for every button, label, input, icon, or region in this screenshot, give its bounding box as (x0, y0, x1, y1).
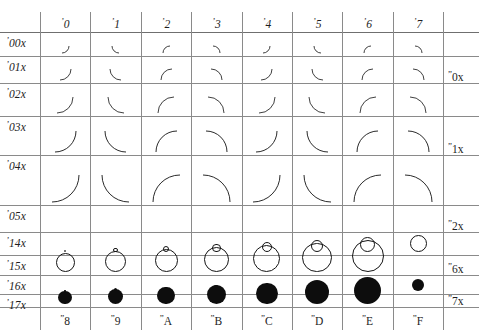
glyph-cell (415, 46, 422, 53)
row-header-hex-4: ”7x (448, 294, 464, 308)
row-header-octal-1: ’01x (6, 60, 26, 74)
grid-vline-0 (40, 12, 41, 330)
glyph-cell (304, 175, 331, 202)
row-header-octal-9: ’17x (6, 298, 26, 312)
column-header-hex-3: ”B (191, 314, 241, 328)
row-header-hex-1: ”1x (448, 142, 464, 156)
row-header-hex-0: ”0x (448, 70, 464, 84)
row-header-hex-2: ”2x (448, 219, 464, 233)
column-header-octal-6: ’6 (342, 17, 392, 31)
glyph-cell (405, 175, 432, 202)
row-header-octal-3: ’03x (6, 120, 26, 134)
column-header-hex-1: ”9 (90, 314, 140, 328)
glyph-hollow-circle (253, 245, 280, 272)
glyph-cell (206, 131, 227, 152)
column-header-octal-4: ’4 (242, 17, 292, 31)
glyph-cell (408, 131, 429, 152)
column-header-octal-5: ’5 (292, 17, 342, 31)
glyph-cell (110, 69, 121, 80)
glyph-cell (314, 46, 321, 53)
grid-vline-1 (90, 12, 91, 330)
column-header-hex-2: ”A (141, 314, 191, 328)
glyph-solid-circle (412, 279, 424, 291)
glyph-hollow-circle (56, 253, 75, 272)
glyph-hollow-circle (155, 249, 178, 272)
glyph-solid-circle (354, 277, 381, 304)
glyph-solid-circle (207, 285, 227, 305)
glyph-cell (62, 46, 69, 53)
glyph-cell (208, 97, 224, 113)
grid-hline-6 (0, 232, 479, 233)
glyph-cell (203, 175, 230, 202)
glyph-cell (364, 46, 371, 53)
glyph-cell (102, 175, 129, 202)
glyph-hollow-circle (64, 250, 67, 253)
column-header-octal-1: ’1 (90, 17, 140, 31)
glyph-cell (211, 69, 222, 80)
row-header-hex-3: ”6x (448, 262, 464, 276)
row-header-octal-0: ’00x (6, 36, 26, 50)
glyph-solid-circle (108, 289, 124, 305)
glyph-cell (362, 69, 373, 80)
column-header-hex-6: ”E (342, 314, 392, 328)
glyph-cell (105, 131, 126, 152)
row-header-octal-4: ’04x (6, 159, 26, 173)
column-header-octal-7: ’7 (393, 17, 443, 31)
grid-hline-9 (0, 294, 479, 295)
glyph-cell (259, 97, 275, 113)
glyph-cell (312, 69, 323, 80)
glyph-hollow-circle (302, 243, 332, 273)
column-header-hex-0: ”8 (40, 314, 90, 328)
glyph-solid-circle (305, 280, 329, 304)
grid-vline-7 (393, 12, 394, 330)
glyph-cell (307, 131, 328, 152)
grid-hline-2 (0, 83, 479, 84)
row-header-octal-6: ’14x (6, 236, 26, 250)
column-header-octal-0: ’0 (40, 17, 90, 31)
row-header-octal-5: ’05x (6, 209, 26, 223)
glyph-cell (263, 46, 270, 53)
glyph-hollow-circle (410, 235, 427, 252)
glyph-solid-circle (256, 283, 278, 305)
column-header-hex-4: ”C (242, 314, 292, 328)
glyph-cell (309, 97, 325, 113)
glyph-cell (360, 97, 376, 113)
glyph-cell (57, 97, 73, 113)
glyph-cell (55, 131, 76, 152)
glyph-cell (261, 69, 272, 80)
glyph-solid-circle (157, 287, 175, 305)
grid-vline-2 (141, 12, 142, 330)
glyph-cell (253, 175, 280, 202)
glyph-cell (357, 131, 378, 152)
column-header-octal-3: ’3 (191, 17, 241, 31)
font-glyph-chart: ’0’1’2’3’4’5’6’7”8”9”A”B”C”D”E”F’00x’01x… (0, 0, 479, 334)
grid-hline-8 (0, 275, 479, 276)
grid-vline-4 (242, 12, 243, 330)
glyph-cell (52, 175, 79, 202)
row-header-octal-2: ’02x (6, 87, 26, 101)
glyph-cell (158, 97, 174, 113)
grid-vline-3 (191, 12, 192, 330)
glyph-cell (112, 46, 119, 53)
column-header-octal-2: ’2 (141, 17, 191, 31)
grid-hline-4 (0, 155, 479, 156)
glyph-cell (153, 175, 180, 202)
grid-vline-right (443, 12, 444, 330)
glyph-hollow-circle (105, 251, 126, 272)
glyph-cell (161, 69, 172, 80)
glyph-cell (108, 97, 124, 113)
grid-vline-5 (292, 12, 293, 330)
column-header-hex-5: ”D (292, 314, 342, 328)
row-header-octal-8: ’16x (6, 279, 26, 293)
glyph-hollow-circle (204, 247, 229, 272)
glyph-cell (156, 131, 177, 152)
glyph-cell (354, 175, 381, 202)
grid-hline-3 (0, 116, 479, 117)
glyph-cell (413, 69, 424, 80)
grid-hline-10 (0, 307, 479, 308)
glyph-cell (256, 131, 277, 152)
row-header-octal-7: ’15x (6, 259, 26, 273)
glyph-cell (213, 46, 220, 53)
grid-hline-5 (0, 205, 479, 206)
grid-hline-0 (0, 32, 479, 33)
